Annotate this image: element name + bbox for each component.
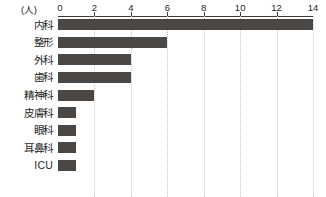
bar-row: ICU	[0, 157, 326, 175]
x-axis-unit-label: (人)	[21, 2, 37, 16]
bar-row: 内科	[0, 16, 326, 34]
bar	[58, 125, 76, 136]
bar	[58, 54, 131, 65]
bar	[58, 142, 76, 153]
category-label: 歯科	[0, 72, 53, 83]
category-label: 耳鼻科	[0, 143, 53, 154]
bar	[58, 37, 167, 48]
bar-chart: (人) 02468101214 内科整形外科歯科精神科皮膚科眼科耳鼻科ICU	[0, 0, 326, 197]
bar-row: 整形	[0, 34, 326, 52]
bar-row: 外科	[0, 51, 326, 69]
bar	[58, 19, 313, 30]
category-label: 外科	[0, 55, 53, 66]
x-axis-tick-label: 14	[308, 2, 319, 13]
category-label: 整形	[0, 37, 53, 48]
bar-row: 耳鼻科	[0, 139, 326, 157]
bar-row: 皮膚科	[0, 104, 326, 122]
x-axis: (人) 02468101214	[0, 0, 326, 17]
category-label: 眼科	[0, 125, 53, 136]
category-label: ICU	[0, 160, 53, 171]
category-label: 皮膚科	[0, 108, 53, 119]
bar	[58, 72, 131, 83]
bar	[58, 160, 76, 171]
bar-row: 眼科	[0, 122, 326, 140]
bar-row: 歯科	[0, 69, 326, 87]
category-label: 内科	[0, 20, 53, 31]
bar	[58, 90, 94, 101]
bar-rows: 内科整形外科歯科精神科皮膚科眼科耳鼻科ICU	[0, 16, 326, 197]
bar-row: 精神科	[0, 86, 326, 104]
category-label: 精神科	[0, 90, 53, 101]
bar	[58, 107, 76, 118]
x-axis-tick-label: 0	[57, 2, 62, 13]
